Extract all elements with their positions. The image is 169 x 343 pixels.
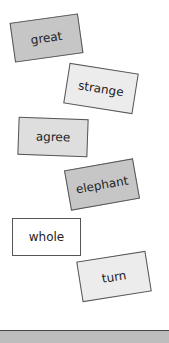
word-card-label: agree	[36, 129, 71, 144]
word-card-label: elephant	[75, 173, 130, 196]
word-card-label: strange	[77, 78, 124, 99]
word-card-strange[interactable]: strange	[63, 63, 139, 114]
word-card-turn[interactable]: turn	[76, 251, 152, 302]
word-card-label: great	[30, 29, 63, 47]
word-card-label: turn	[101, 268, 128, 286]
bottom-bar	[0, 330, 169, 343]
word-card-elephant[interactable]: elephant	[64, 158, 140, 211]
word-card-whole[interactable]: whole	[12, 218, 81, 256]
word-card-label: whole	[29, 230, 64, 244]
word-card-great[interactable]: great	[10, 13, 84, 62]
word-card-agree[interactable]: agree	[17, 117, 88, 157]
